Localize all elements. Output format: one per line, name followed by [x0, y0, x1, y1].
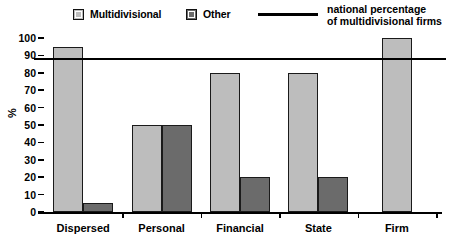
x-axis-tick	[279, 212, 281, 218]
x-axis-line	[38, 212, 442, 214]
y-axis-tick	[38, 55, 44, 57]
legend-rule-icon	[258, 13, 318, 16]
x-axis-tick	[436, 212, 438, 218]
category-label-financial: Financial	[216, 222, 264, 234]
legend-label-national-line-2: of multidivisional firms	[327, 15, 442, 27]
y-axis-tick	[38, 37, 44, 39]
plot-area: 1009080706050403020100 DispersedPersonal…	[44, 38, 436, 212]
bar-personal-other	[162, 125, 192, 212]
x-axis-tick	[201, 212, 203, 218]
category-label-firm: Firm	[385, 222, 409, 234]
y-axis-tick-label: 60	[24, 102, 36, 114]
y-axis-tick-label: 40	[24, 136, 36, 148]
y-axis-tick	[38, 176, 44, 178]
y-axis-tick-label: 10	[24, 189, 36, 201]
bar-firm-multidivisional	[382, 38, 412, 212]
y-axis-tick	[38, 72, 44, 74]
y-axis-tick-label: 30	[24, 154, 36, 166]
legend-label-national-line-1: national percentage	[327, 3, 426, 15]
x-axis-tick	[358, 212, 360, 218]
legend-label-national-line: national percentage of multidivisional f…	[327, 4, 442, 27]
bar-financial-other	[240, 177, 270, 212]
bar-dispersed-multidivisional	[53, 47, 83, 212]
y-axis-tick-label: 50	[24, 119, 36, 131]
y-axis-tick	[38, 211, 44, 213]
category-label-personal: Personal	[138, 222, 184, 234]
chart-legend: Multidivisional Other national percentag…	[0, 2, 454, 30]
bar-state-other	[318, 177, 348, 212]
bar-chart: Multidivisional Other national percentag…	[0, 0, 454, 244]
y-axis-tick	[38, 124, 44, 126]
y-axis-tick-label: 70	[24, 84, 36, 96]
y-axis-tick	[38, 142, 44, 144]
bar-personal-multidivisional	[132, 125, 162, 212]
y-axis-tick	[38, 107, 44, 109]
bar-state-multidivisional	[288, 73, 318, 212]
legend-label-other: Other	[203, 8, 231, 20]
legend-item-other: Other	[186, 8, 231, 20]
y-axis-title: %	[6, 108, 18, 118]
y-axis-tick-label: 100	[18, 32, 36, 44]
y-axis-tick-label: 20	[24, 171, 36, 183]
x-axis-tick	[122, 212, 124, 218]
bar-dispersed-other	[83, 203, 113, 212]
y-axis-tick-label: 80	[24, 67, 36, 79]
bar-financial-multidivisional	[210, 73, 240, 212]
national-percentage-line	[34, 58, 446, 61]
legend-swatch-multidivisional	[73, 9, 84, 20]
y-axis-tick	[38, 159, 44, 161]
legend-item-national-line: national percentage of multidivisional f…	[258, 4, 442, 27]
y-axis-tick-label: 0	[30, 206, 36, 218]
category-label-state: State	[305, 222, 332, 234]
legend-item-multidivisional: Multidivisional	[73, 8, 161, 20]
y-axis-tick	[38, 89, 44, 91]
category-label-dispersed: Dispersed	[57, 222, 110, 234]
y-axis-tick	[38, 194, 44, 196]
legend-swatch-other	[186, 9, 197, 20]
legend-label-multidivisional: Multidivisional	[90, 8, 161, 20]
